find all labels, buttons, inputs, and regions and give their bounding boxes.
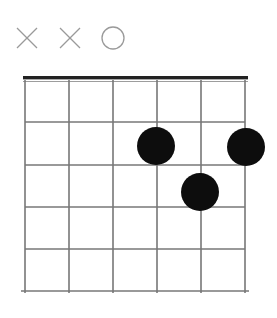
- chord-diagram: [0, 0, 277, 318]
- finger-dot-string-6-fret-2: [227, 128, 265, 166]
- finger-dot-string-5-fret-3: [181, 173, 219, 211]
- chord-diagram-canvas: [0, 0, 277, 318]
- finger-dot-string-4-fret-2: [137, 127, 175, 165]
